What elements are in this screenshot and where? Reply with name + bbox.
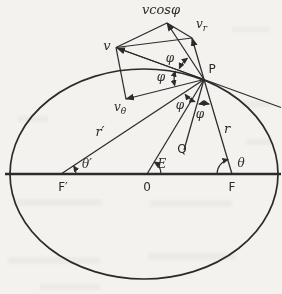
label-v-cos-phi: vcosφ: [142, 2, 181, 17]
label-phi-upper: φ: [166, 51, 175, 65]
label-focus-right: F: [229, 180, 236, 194]
label-phi-left: φ: [157, 70, 166, 84]
label-theta: θ: [237, 156, 245, 170]
label-center: 0: [143, 180, 151, 194]
label-r: r: [224, 121, 231, 136]
label-theta-prime: θ′: [82, 157, 92, 171]
label-eccentric-anomaly: E: [157, 157, 167, 171]
label-q: Q: [177, 142, 186, 156]
label-p: P: [208, 62, 215, 76]
label-phi-lower-right: φ: [196, 107, 205, 121]
orbital-velocity-diagram: vcosφ vr v vθ P Q r′ r φ φ φ φ θ′ E θ F′…: [0, 0, 282, 294]
label-r-prime: r′: [95, 124, 104, 139]
phi-arc-normal-r: [199, 103, 209, 104]
label-v: v: [103, 38, 111, 53]
label-focus-left: F′: [58, 180, 68, 194]
label-phi-lower-left: φ: [176, 98, 185, 112]
